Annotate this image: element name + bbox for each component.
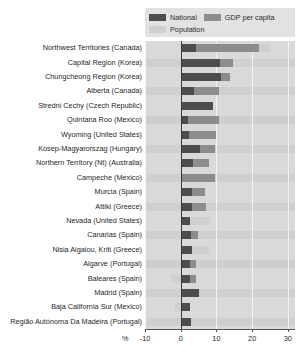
bar-segment [192,203,206,211]
bar-row [145,214,295,228]
bar-segment [196,260,205,268]
bar-segment [181,131,190,139]
bar-segment [181,159,193,167]
category-label: Wyoming (United States) [0,130,142,140]
legend-row-2: Population [149,23,291,35]
legend-item-gdp-per-capita: GDP per capita [204,13,275,22]
horizontal-stacked-bar-chart: National GDP per capita Population North… [0,0,297,359]
legend-row-1: National GDP per capita [149,11,291,23]
bar-segment [188,116,219,124]
bar-segment [200,145,214,153]
x-axis-tick [181,329,182,332]
x-axis-tick [288,329,289,332]
zero-line [181,41,182,329]
bar-row [145,84,295,98]
bar-row [145,127,295,141]
bar-segment [181,260,190,268]
bar-segment [181,102,213,110]
bar-row [145,257,295,271]
bar-row [145,185,295,199]
bar-segment [192,188,205,196]
bar-segment [198,231,207,239]
legend-label-gdp-per-capita: GDP per capita [225,13,275,22]
x-axis-tick [252,329,253,332]
bar-row [145,55,295,69]
bar-segment [259,44,270,52]
category-label: Chungcheong Region (Korea) [0,72,142,82]
legend-label-population: Population [170,25,205,34]
category-label: Campeche (Mexico) [0,173,142,183]
bar-row [145,142,295,156]
category-axis-labels: Northwest Territories (Canada)Capital Re… [0,41,142,329]
bar-segment [171,275,180,283]
bar-row [145,113,295,127]
bar-segment [220,59,233,67]
bar-segment [194,87,218,95]
bar-segment [181,246,192,254]
category-label: Stredni Cechy (Czech Republic) [0,101,142,111]
bar-segment [190,275,196,283]
bar-segment [181,44,196,52]
legend-swatch-gdp-per-capita [204,14,221,21]
legend-label-national: National [170,13,197,22]
category-label: Alberta (Canada) [0,86,142,96]
bar-row [145,315,295,329]
category-label: Quintana Roo (Mexico) [0,115,142,125]
category-label: Capital Region (Korea) [0,58,142,68]
bar-segment [221,73,230,81]
legend-swatch-population [149,26,166,33]
bar-segment [181,73,221,81]
bar-segment [190,217,210,225]
category-label: Nevada (United States) [0,216,142,226]
x-axis-unit-label: % [122,334,129,343]
bar-row [145,271,295,285]
bar-segment [166,289,181,297]
bar-segment [181,303,190,311]
bar-segment [181,231,191,239]
bar-row [145,99,295,113]
bar-segment [181,174,215,182]
category-label: Kosep-Magyarorszag (Hungary) [0,144,142,154]
category-label: Attiki (Greece) [0,202,142,212]
bar-segment [181,145,201,153]
category-label: Região Autónoma Da Madeira (Portugal) [0,317,142,327]
legend-swatch-national [149,14,166,21]
chart-legend: National GDP per capita Population [145,8,295,37]
legend-item-national: National [149,13,197,22]
x-axis-tick [145,329,146,332]
category-label: Canarias (Spain) [0,230,142,240]
bar-row [145,41,295,55]
bar-segment [181,289,200,297]
x-axis-tick-label: 20 [248,334,256,343]
bar-row [145,228,295,242]
bar-segment [181,318,191,326]
category-label: Baja California Sur (Mexico) [0,302,142,312]
bar-row [145,243,295,257]
x-axis-line [145,329,295,330]
bar-row [145,156,295,170]
bar-row [145,199,295,213]
bar-segment [181,275,190,283]
bar-row [145,300,295,314]
bar-segment [181,188,192,196]
bar-segment [192,246,208,254]
bar-segment [181,59,220,67]
category-label: Nisia Aigaiou, Kriti (Greece) [0,245,142,255]
x-axis-tick-label: 30 [284,334,292,343]
bar-row [145,171,295,185]
bar-segment [181,87,195,95]
category-label: Algarve (Portugal) [0,259,142,269]
category-label: Murcia (Spain) [0,187,142,197]
plot-area [145,41,295,329]
bar-row [145,70,295,84]
x-axis-tick-label: 10 [212,334,220,343]
category-label: Madrid (Spain) [0,288,142,298]
bar-segment [196,44,259,52]
category-label: Northwest Territories (Canada) [0,43,142,53]
bar-segment [181,116,188,124]
bar-segment [181,217,190,225]
bar-segment [189,131,216,139]
category-label: Baleares (Spain) [0,274,142,284]
category-label: Northern Territory (Nt) (Australia) [0,158,142,168]
x-axis-tick-label: -10 [140,334,151,343]
